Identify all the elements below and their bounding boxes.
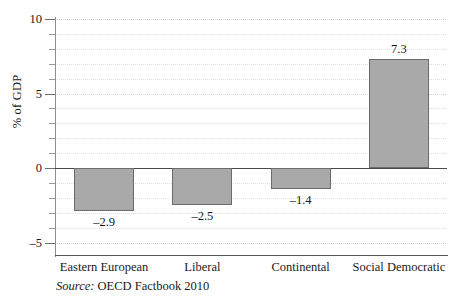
category-label: Eastern European xyxy=(60,261,149,274)
gridline xyxy=(57,49,446,50)
gridline xyxy=(57,34,446,35)
y-axis-tick xyxy=(49,138,55,139)
y-axis-line xyxy=(55,17,56,257)
y-axis-tick xyxy=(49,183,55,184)
y-axis-tick-label: 5 xyxy=(2,87,42,100)
y-axis-title: % of GDP xyxy=(10,59,25,145)
bar-value-label: 7.3 xyxy=(391,43,407,56)
y-axis-tick xyxy=(49,228,55,229)
y-axis-tick-label: –5 xyxy=(2,236,42,249)
y-axis-tick xyxy=(49,213,55,214)
y-axis-tick xyxy=(49,64,55,65)
y-axis-tick xyxy=(49,108,55,109)
bar-eastern-european[interactable] xyxy=(74,168,134,211)
y-axis-tick xyxy=(49,79,55,80)
y-axis-tick xyxy=(45,94,55,95)
bar-value-label: –1.4 xyxy=(290,194,312,207)
source-keyword: Source: xyxy=(56,279,94,293)
bar-value-label: –2.9 xyxy=(93,216,115,229)
category-label: Continental xyxy=(271,261,329,274)
gridline xyxy=(57,228,446,229)
bar-liberal[interactable] xyxy=(172,168,232,205)
y-axis-tick-label: 10 xyxy=(2,13,42,26)
y-axis-tick xyxy=(49,123,55,124)
y-axis-tick xyxy=(45,19,55,20)
y-axis-tick xyxy=(49,49,55,50)
y-axis-tick xyxy=(49,198,55,199)
source-note: Source: OECD Factbook 2010 xyxy=(56,280,209,293)
bar-value-label: –2.5 xyxy=(191,210,213,223)
bar-social-democratic[interactable] xyxy=(369,59,429,168)
y-axis-tick xyxy=(49,34,55,35)
gridline xyxy=(57,243,446,244)
bar-continental[interactable] xyxy=(271,168,331,189)
y-axis-tick xyxy=(45,243,55,244)
category-label: Liberal xyxy=(184,261,220,274)
x-axis-line xyxy=(55,255,448,256)
category-label: Social Democratic xyxy=(353,261,446,274)
y-axis-tick xyxy=(49,153,55,154)
y-axis-tick xyxy=(45,168,55,169)
bar-chart-figure: % of GDP 1050–5 –2.9–2.5–1.47.3 Eastern … xyxy=(0,0,459,301)
gridline xyxy=(57,19,446,20)
y-axis-tick-label: 0 xyxy=(2,162,42,175)
gridline xyxy=(57,213,446,214)
source-text: OECD Factbook 2010 xyxy=(94,279,209,293)
